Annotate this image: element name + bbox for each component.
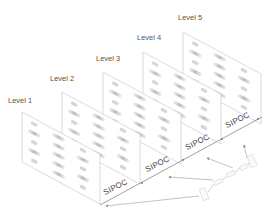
level-4-label: Level 4 (137, 33, 161, 42)
arrow-to-sipoc-3 (207, 158, 233, 168)
level-5-label: Level 5 (178, 13, 202, 22)
layer-stack-graphic (0, 0, 268, 215)
level-3-label: Level 3 (96, 54, 120, 63)
arrow-to-sipoc-2 (169, 177, 213, 180)
arrow-to-sipoc-1 (106, 196, 199, 206)
level-1-label: Level 1 (8, 96, 32, 105)
node-chain (199, 154, 257, 200)
diagram-canvas: Level 1 Level 2 Level 3 Level 4 Level 5 … (0, 0, 268, 215)
arrow-to-sipoc-4 (244, 145, 247, 158)
level-2-label: Level 2 (50, 74, 74, 83)
